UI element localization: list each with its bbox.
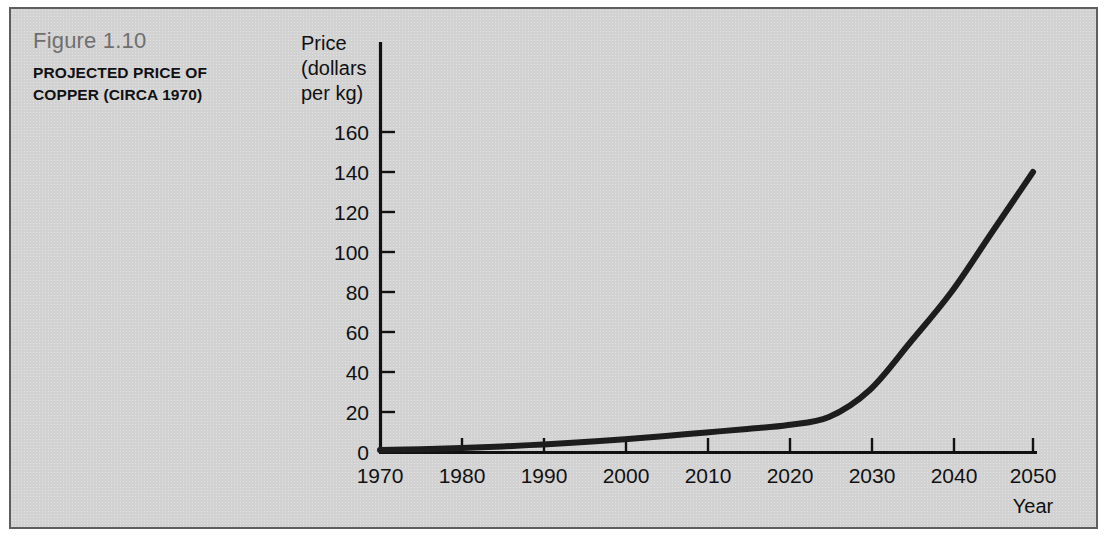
xtick-label-2030: 2030: [849, 464, 896, 487]
figure-number-label: Figure 1.10: [33, 27, 273, 55]
caption-block: Figure 1.10 PROJECTED PRICE OF COPPER (C…: [33, 27, 273, 107]
xtick-label-1990: 1990: [521, 464, 568, 487]
ytick-label-80: 80: [346, 281, 369, 304]
ytick-label-120: 120: [334, 201, 369, 224]
figure-root: Figure 1.10 PROJECTED PRICE OF COPPER (C…: [0, 0, 1107, 547]
xtick-label-1980: 1980: [439, 464, 486, 487]
ytick-label-60: 60: [346, 321, 369, 344]
y-axis-ticks: [381, 132, 395, 412]
xtick-label-2040: 2040: [931, 464, 978, 487]
x-axis-title: Year: [1013, 495, 1054, 517]
ytick-label-100: 100: [334, 241, 369, 264]
xtick-label-2020: 2020: [767, 464, 814, 487]
xtick-label-2050: 2050: [1010, 464, 1057, 487]
xtick-label-2010: 2010: [685, 464, 732, 487]
price-curve: [380, 172, 1033, 450]
y-axis-title-line-1: Price: [301, 32, 347, 54]
y-axis-title-line-3: per kg): [301, 82, 363, 104]
ytick-label-0: 0: [357, 441, 369, 464]
x-axis-ticks: [462, 438, 1033, 452]
ytick-label-20: 20: [346, 401, 369, 424]
xtick-label-2000: 2000: [603, 464, 650, 487]
ytick-label-40: 40: [346, 361, 369, 384]
ytick-label-140: 140: [334, 161, 369, 184]
figure-panel: Figure 1.10 PROJECTED PRICE OF COPPER (C…: [9, 7, 1098, 529]
y-axis-title-line-2: (dollars: [301, 57, 367, 79]
ytick-label-160: 160: [334, 121, 369, 144]
xtick-label-1970: 1970: [357, 464, 404, 487]
figure-title: PROJECTED PRICE OF COPPER (CIRCA 1970): [33, 62, 273, 108]
